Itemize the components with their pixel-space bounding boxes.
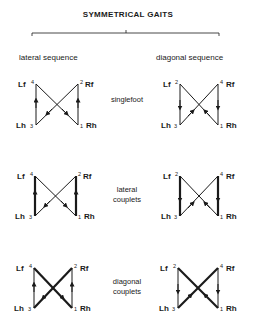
svg-text:Rh: Rh [226, 212, 237, 221]
svg-text:Lf: Lf [16, 264, 24, 273]
svg-text:3: 3 [28, 306, 31, 312]
svg-text:Lf: Lf [163, 80, 171, 89]
svg-text:2: 2 [175, 79, 178, 85]
bracket [32, 30, 219, 36]
svg-text:Rf: Rf [226, 264, 235, 273]
svg-text:Lh: Lh [15, 212, 25, 221]
svg-text:1: 1 [80, 123, 83, 129]
diagram-lateral-singlefoot [36, 84, 78, 125]
svg-text:4: 4 [220, 79, 223, 85]
gait-diagram-canvas: Lf4 Rf2 Lh3 Rh1 Lf2 Rf4 Lh3 Rh1 Lf4 Rf2 … [0, 0, 256, 322]
svg-text:Lh: Lh [159, 304, 169, 313]
svg-text:Rf: Rf [83, 172, 92, 181]
svg-text:Lh: Lh [161, 121, 171, 130]
svg-text:3: 3 [174, 123, 177, 129]
svg-text:1: 1 [220, 123, 223, 129]
svg-text:1: 1 [74, 306, 77, 312]
svg-text:1: 1 [220, 306, 223, 312]
diagram-diagonal-couplets-lateral-seq [34, 268, 72, 308]
svg-text:Lh: Lh [161, 212, 171, 221]
svg-text:Lf: Lf [17, 172, 25, 181]
svg-text:2: 2 [173, 263, 176, 269]
diagram-lateral-couplets-lateral-seq [35, 176, 76, 216]
svg-text:Lf: Lf [160, 264, 168, 273]
svg-text:Rh: Rh [226, 304, 237, 313]
svg-text:2: 2 [175, 171, 178, 177]
svg-text:Rh: Rh [84, 212, 95, 221]
svg-text:Rf: Rf [226, 80, 235, 89]
svg-text:4: 4 [31, 79, 34, 85]
diagram-lateral-couplets-diagonal-seq [180, 176, 218, 216]
svg-text:2: 2 [74, 263, 77, 269]
svg-text:Rh: Rh [86, 121, 97, 130]
svg-text:Lh: Lh [16, 121, 26, 130]
svg-text:1: 1 [78, 214, 81, 220]
svg-text:Lh: Lh [14, 304, 24, 313]
svg-text:3: 3 [29, 214, 32, 220]
svg-text:4: 4 [29, 263, 32, 269]
svg-text:Rf: Rf [80, 264, 89, 273]
svg-text:Rh: Rh [80, 304, 91, 313]
svg-text:3: 3 [174, 214, 177, 220]
svg-text:4: 4 [220, 171, 223, 177]
svg-text:Rh: Rh [226, 121, 237, 130]
svg-text:3: 3 [30, 123, 33, 129]
svg-text:2: 2 [80, 79, 83, 85]
diagram-diagonal-couplets-diagonal-seq [178, 268, 218, 308]
diagram-diagonal-singlefoot [180, 84, 218, 125]
svg-text:4: 4 [220, 263, 223, 269]
svg-text:4: 4 [30, 171, 33, 177]
svg-text:1: 1 [220, 214, 223, 220]
svg-text:Rf: Rf [226, 172, 235, 181]
svg-text:Lf: Lf [163, 172, 171, 181]
svg-text:Rf: Rf [85, 80, 94, 89]
svg-text:Lf: Lf [18, 80, 26, 89]
svg-text:3: 3 [172, 306, 175, 312]
svg-text:2: 2 [78, 171, 81, 177]
